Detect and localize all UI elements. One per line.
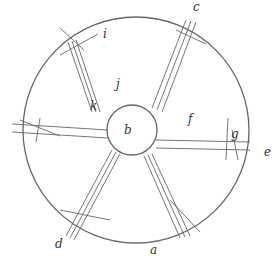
turbine-diagram: a b c d e f g i j k (0, 0, 279, 260)
vane-bottom-right (144, 154, 200, 238)
label-g: g (231, 127, 239, 141)
label-b: b (124, 123, 132, 137)
label-j: j (113, 77, 120, 91)
label-c: c (193, 0, 200, 14)
label-f: f (187, 112, 195, 126)
outer-ring (23, 17, 249, 243)
hub-circle (107, 105, 157, 155)
vane-top-right (152, 20, 206, 112)
label-d: d (55, 237, 63, 251)
label-a: a (150, 243, 157, 257)
vane-bottom-left (60, 150, 120, 240)
vane-left (12, 118, 108, 142)
label-e: e (264, 145, 271, 159)
label-k: k (90, 99, 97, 113)
label-i: i (103, 27, 107, 41)
